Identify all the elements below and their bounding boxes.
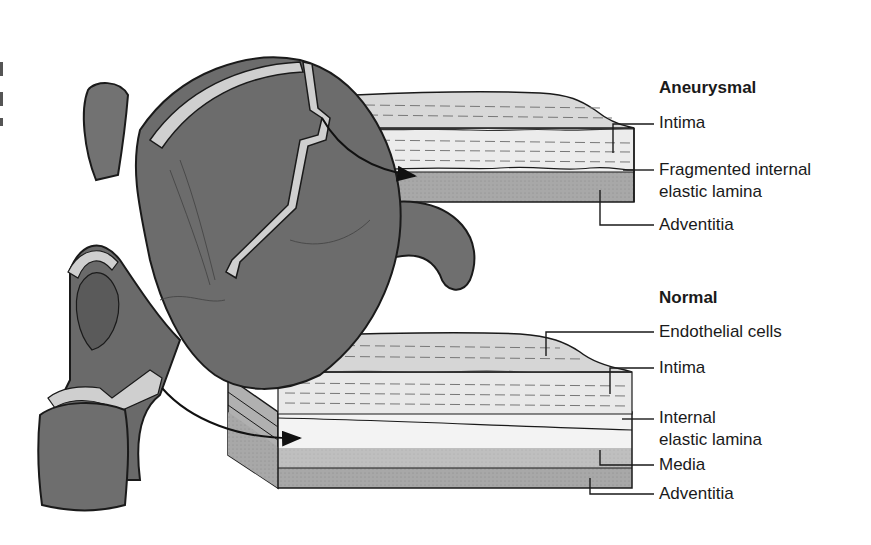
media-label: Media: [659, 455, 705, 475]
aneurysmal-intima-label: Intima: [659, 113, 705, 133]
internal-lamina-label-1: Internal: [659, 408, 716, 428]
normal-heading: Normal: [659, 288, 718, 308]
edge-mark: [0, 92, 3, 106]
edge-mark: [0, 118, 3, 126]
fragmented-lamina-label-2: elastic lamina: [659, 182, 762, 202]
aneurysm-diagram: Aneurysmal Intima Fragmented internal el…: [0, 0, 871, 545]
normal-intima-label: Intima: [659, 358, 705, 378]
fragmented-lamina-label-1: Fragmented internal: [659, 160, 811, 180]
edge-mark: [0, 62, 3, 76]
internal-lamina-label-2: elastic lamina: [659, 430, 762, 450]
normal-adventitia-label: Adventitia: [659, 484, 734, 504]
endothelial-cells-label: Endothelial cells: [659, 322, 782, 342]
aneurysmal-adventitia-label: Adventitia: [659, 215, 734, 235]
aneurysmal-heading: Aneurysmal: [659, 78, 756, 98]
